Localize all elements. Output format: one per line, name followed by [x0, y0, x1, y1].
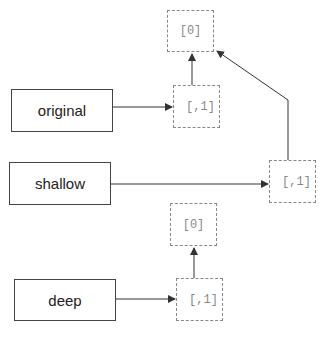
cell-deep-inner: [0]	[170, 203, 217, 246]
variable-shallow: shallow	[9, 162, 111, 205]
cell-label: [,1]	[178, 100, 215, 114]
cell-label: [0]	[183, 218, 205, 232]
variable-original: original	[11, 89, 113, 132]
cell-shallow-outer: [,1]	[269, 160, 316, 203]
cell-label: [0]	[180, 24, 202, 38]
variable-label: original	[38, 102, 86, 119]
cell-label: [,1]	[181, 293, 218, 307]
cell-original-outer: [,1]	[173, 85, 220, 128]
variable-label: deep	[48, 292, 81, 309]
cell-shared-inner: [0]	[167, 10, 214, 52]
cell-label: [,1]	[274, 175, 311, 189]
variable-deep: deep	[14, 279, 116, 321]
arrow-shallow-outer-to-shared-inner	[217, 51, 288, 174]
variable-label: shallow	[35, 175, 85, 192]
cell-deep-outer: [,1]	[176, 278, 223, 321]
reference-diagram: original shallow deep [0] [,1] [,1] [0] …	[0, 0, 324, 337]
